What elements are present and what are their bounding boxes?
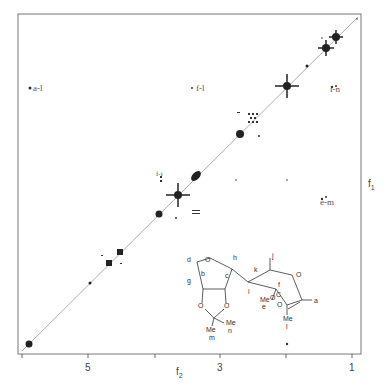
svg-text:f: f <box>278 281 280 288</box>
cross-peaks <box>29 18 358 345</box>
svg-text:O: O <box>277 301 283 308</box>
svg-text:k: k <box>254 266 258 273</box>
svg-text:e: e <box>262 303 266 310</box>
svg-text:b: b <box>201 270 205 277</box>
cosy-plot: d g b c h O O O Me n Me m k j i f Me e O… <box>0 0 389 392</box>
svg-text:h: h <box>233 254 237 261</box>
svg-text:Me: Me <box>260 296 270 303</box>
cross-peak-label-f-l: f-l <box>196 83 205 93</box>
cross-peak-label-a-l: a-l <box>33 83 43 93</box>
svg-text:O: O <box>205 256 211 263</box>
x-tick-1: 1 <box>349 362 355 373</box>
svg-text:c: c <box>225 272 229 279</box>
svg-text:i: i <box>248 288 250 295</box>
svg-text:g: g <box>187 277 191 285</box>
svg-text:Me: Me <box>226 319 236 326</box>
x-tick-3: 3 <box>217 362 223 373</box>
cross-peak-label-i-n: i-n <box>330 84 340 94</box>
x-axis-title: f2 <box>176 366 183 379</box>
svg-text:O: O <box>224 302 230 309</box>
svg-text:n: n <box>228 327 232 334</box>
svg-text:j: j <box>271 252 274 260</box>
y-axis-title: f1 <box>368 178 375 191</box>
svg-text:m: m <box>209 334 215 341</box>
molecule-labels: d g b c h O O O Me n Me m k j i f Me e O… <box>187 252 318 341</box>
svg-text:l: l <box>286 323 288 330</box>
cross-peak-label-f-i: f-i <box>156 170 163 178</box>
svg-text:Me: Me <box>283 315 293 322</box>
x-axis-ticks <box>22 354 352 358</box>
svg-text:a: a <box>314 297 318 304</box>
svg-text:O: O <box>296 271 302 278</box>
svg-text:Me: Me <box>206 326 216 333</box>
cross-peak-label-e-m: e-m <box>320 197 334 207</box>
svg-text:O: O <box>198 302 204 309</box>
svg-text:C: C <box>276 291 281 298</box>
svg-text:d: d <box>187 256 191 263</box>
x-tick-5: 5 <box>85 362 91 373</box>
